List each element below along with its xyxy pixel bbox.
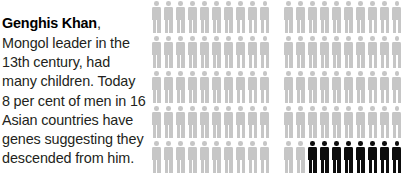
- person-torso: [236, 147, 245, 159]
- person-leg-left: [249, 19, 253, 33]
- person-leg-right: [386, 54, 390, 68]
- person-leg-right: [374, 124, 378, 138]
- person-leg-right: [386, 89, 390, 103]
- person-leg-left: [381, 54, 385, 68]
- person-icon: [319, 35, 331, 69]
- person-torso: [284, 77, 293, 89]
- person-leg-right: [266, 159, 270, 173]
- person-torso: [368, 42, 377, 54]
- person-leg-right: [181, 19, 185, 33]
- person-leg-right: [169, 19, 173, 33]
- person-torso: [284, 42, 293, 54]
- person-torso: [296, 77, 305, 89]
- person-head: [298, 1, 303, 6]
- person-leg-left: [369, 54, 373, 68]
- person-torso: [188, 147, 197, 159]
- person-leg-right: [337, 54, 341, 68]
- person-torso: [188, 112, 197, 124]
- person-leg-left: [249, 89, 253, 103]
- person-torso: [248, 147, 257, 159]
- person-head: [202, 141, 207, 146]
- person-icon: [295, 35, 307, 69]
- person-torso: [248, 42, 257, 54]
- person-head: [310, 141, 315, 146]
- person-icon: [175, 35, 187, 69]
- person-head: [286, 1, 291, 6]
- person-torso: [152, 147, 161, 159]
- person-torso: [320, 147, 329, 159]
- person-torso: [308, 42, 317, 54]
- person-leg-right: [289, 89, 293, 103]
- person-icon: [319, 105, 331, 139]
- person-leg-left: [369, 89, 373, 103]
- person-icon-highlighted: [367, 140, 379, 174]
- person-icon: [187, 105, 199, 139]
- person-torso: [308, 147, 317, 159]
- person-torso: [224, 77, 233, 89]
- person-leg-left: [333, 19, 337, 33]
- person-leg-right: [193, 54, 197, 68]
- person-leg-right: [289, 19, 293, 33]
- person-leg-left: [369, 19, 373, 33]
- person-icon: [235, 35, 247, 69]
- person-icon-highlighted: [331, 140, 343, 174]
- person-head: [286, 106, 291, 111]
- person-leg-right: [157, 159, 161, 173]
- person-torso: [164, 112, 173, 124]
- person-leg-left: [213, 159, 217, 173]
- person-head: [190, 106, 195, 111]
- person-icon-highlighted: [355, 140, 367, 174]
- person-torso: [392, 77, 401, 89]
- person-leg-right: [205, 124, 209, 138]
- pictogram-row: [151, 35, 272, 69]
- person-head: [395, 141, 400, 146]
- person-head: [395, 106, 400, 111]
- person-leg-left: [285, 159, 289, 173]
- person-icon: [151, 140, 163, 174]
- person-head: [202, 106, 207, 111]
- person-head: [154, 36, 159, 41]
- person-icon: [163, 105, 175, 139]
- person-leg-left: [177, 19, 181, 33]
- person-torso: [344, 147, 353, 159]
- person-leg-left: [201, 89, 205, 103]
- person-torso: [344, 7, 353, 19]
- person-icon: [259, 35, 271, 69]
- person-torso: [380, 77, 389, 89]
- person-leg-left: [357, 159, 361, 173]
- person-head: [226, 36, 231, 41]
- person-icon: [379, 35, 391, 69]
- person-leg-right: [242, 54, 246, 68]
- person-head: [154, 141, 159, 146]
- person-icon: [199, 140, 211, 174]
- person-torso: [188, 77, 197, 89]
- person-leg-left: [237, 159, 241, 173]
- person-icon: [319, 0, 331, 34]
- person-head: [202, 71, 207, 76]
- caption-body: , Mongol leader in the 13th century, had…: [2, 15, 146, 166]
- person-leg-left: [321, 19, 325, 33]
- person-head: [202, 36, 207, 41]
- person-leg-left: [249, 124, 253, 138]
- person-leg-right: [313, 54, 317, 68]
- person-head: [322, 71, 327, 76]
- person-icon: [175, 140, 187, 174]
- person-leg-left: [309, 89, 313, 103]
- person-leg-left: [309, 19, 313, 33]
- person-leg-right: [337, 89, 341, 103]
- person-icon: [379, 105, 391, 139]
- person-torso: [212, 7, 221, 19]
- person-torso: [368, 147, 377, 159]
- person-torso: [356, 7, 365, 19]
- person-leg-right: [386, 159, 390, 173]
- person-leg-left: [189, 124, 193, 138]
- person-leg-left: [177, 54, 181, 68]
- person-torso: [236, 77, 245, 89]
- person-torso: [332, 147, 341, 159]
- person-head: [190, 1, 195, 6]
- person-torso: [356, 42, 365, 54]
- person-head: [334, 141, 339, 146]
- person-icon: [223, 70, 235, 104]
- person-torso: [164, 42, 173, 54]
- pictogram-row: [283, 140, 405, 174]
